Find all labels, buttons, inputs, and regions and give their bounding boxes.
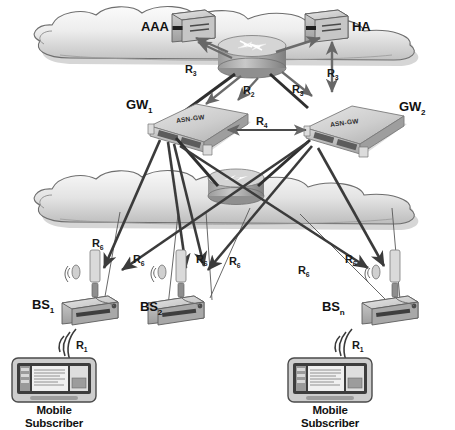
ha-server-icon — [305, 10, 348, 42]
bs2-label: BS2 — [140, 300, 162, 317]
r6-label-d: R6 — [229, 256, 240, 270]
bsn-label: BSn — [322, 300, 344, 317]
r4-label: R4 — [256, 116, 267, 130]
bs1-label: BS1 — [32, 298, 54, 315]
aaa-server-icon — [172, 10, 215, 42]
r6-label-b: R6 — [133, 254, 144, 268]
r6-label-a: R6 — [92, 238, 103, 252]
r2-label: R2 — [243, 85, 254, 99]
bs1-icon — [62, 250, 118, 325]
mobile-subscriber-2-label: Mobile Subscriber — [284, 404, 376, 430]
network-diagram: AAA HA GW1 GW2 ASN-GW ASN-GW BS1 BS2 BSn… — [0, 0, 455, 430]
r1-label-b: R1 — [352, 340, 363, 354]
r3-label-b: R3 — [292, 84, 303, 98]
r3-label-c: R3 — [327, 68, 338, 82]
r3-label-a: R3 — [185, 64, 196, 78]
r6-label-f: R6 — [345, 254, 356, 268]
access-router-icon — [208, 169, 264, 205]
aaa-label: AAA — [141, 20, 169, 33]
gw2-label: GW2 — [399, 100, 425, 117]
diagram-canvas — [0, 0, 455, 430]
bsn-icon — [362, 250, 418, 325]
gw1-label: GW1 — [126, 98, 152, 115]
r1-label-a: R1 — [76, 340, 87, 354]
mobile-subscriber-1-label: Mobile Subscriber — [8, 404, 100, 430]
ha-label: HA — [352, 20, 370, 33]
r6-label-c: R6 — [196, 254, 207, 268]
r6-label-e: R6 — [298, 265, 309, 279]
